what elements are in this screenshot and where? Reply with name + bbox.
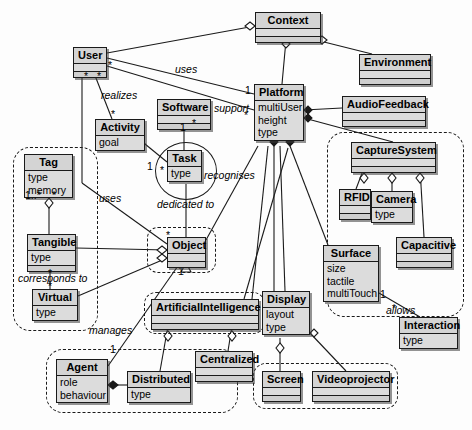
class-box-capturesystem[interactable]: CaptureSystem bbox=[351, 142, 436, 173]
class-name-task: Task bbox=[168, 151, 201, 167]
multiplicity-platform-1: 1 bbox=[245, 85, 251, 96]
multiplicity-tag-dot: * bbox=[52, 190, 56, 201]
class-attrs-environment bbox=[360, 71, 430, 79]
class-name-user: User bbox=[74, 48, 106, 64]
class-name-artificialintelligence: ArtificialIntelligence bbox=[152, 300, 258, 316]
class-name-tangible: Tangible bbox=[28, 235, 75, 251]
attr-platform-multiuser: multiUser bbox=[258, 101, 300, 114]
class-box-object[interactable]: Object bbox=[167, 237, 206, 268]
class-box-videoprojector[interactable]: Videoprojector bbox=[312, 371, 390, 402]
class-box-rfid[interactable]: RFID bbox=[339, 189, 371, 220]
multiplicity-user-c: * bbox=[108, 60, 112, 71]
class-name-capacitive: Capacitive bbox=[397, 238, 451, 254]
class-ops-environment bbox=[360, 79, 430, 84]
class-attrs-context bbox=[256, 29, 320, 37]
attr-platform-height: height bbox=[258, 114, 300, 127]
class-attrs-object bbox=[168, 254, 205, 262]
class-box-user[interactable]: User bbox=[73, 47, 107, 78]
class-box-distributed[interactable]: Distributed type bbox=[127, 371, 191, 403]
class-attrs-virtual: type bbox=[33, 306, 77, 320]
class-name-screen: Screen bbox=[263, 372, 300, 388]
class-box-agent[interactable]: Agent role behaviour bbox=[56, 359, 108, 403]
class-name-distributed: Distributed bbox=[128, 372, 190, 388]
class-box-capacitive[interactable]: Capacitive bbox=[396, 237, 452, 268]
class-box-activity[interactable]: Activity goal bbox=[95, 119, 145, 151]
class-attrs-user bbox=[74, 64, 106, 72]
attr-agent-behaviour: behaviour bbox=[60, 389, 104, 402]
class-ops-capturesystem bbox=[352, 167, 435, 172]
class-name-agent: Agent bbox=[57, 360, 107, 376]
class-attrs-rfid bbox=[340, 206, 370, 214]
relation-label-dedicated-to: dedicated to bbox=[157, 199, 214, 210]
attr-camera-type: type bbox=[375, 208, 409, 221]
class-attrs-activity: goal bbox=[96, 136, 144, 150]
multiplicity-task-dot: * bbox=[160, 165, 164, 176]
attr-tag-type: type bbox=[28, 171, 69, 184]
class-box-context[interactable]: Context bbox=[255, 12, 321, 43]
class-ops-user bbox=[74, 72, 106, 77]
class-box-display[interactable]: Display layout type bbox=[262, 291, 310, 335]
class-name-audiofeedback: AudioFeedback bbox=[343, 97, 425, 113]
class-box-audiofeedback[interactable]: AudioFeedback bbox=[342, 96, 426, 127]
class-attrs-camera: type bbox=[372, 208, 412, 222]
uml-diagram-canvas: Platform --> Activity --> Task --> Objec… bbox=[0, 0, 472, 430]
class-attrs-display: layout type bbox=[263, 308, 309, 334]
class-name-centralized: Centralized bbox=[196, 352, 252, 368]
attr-display-type: type bbox=[266, 321, 306, 334]
class-name-platform: Platform bbox=[255, 85, 303, 101]
attr-surface-tactile: tactile bbox=[327, 275, 375, 288]
attr-platform-type: type bbox=[258, 126, 300, 139]
class-name-surface: Surface bbox=[324, 246, 378, 262]
class-box-surface[interactable]: Surface size tactile multiTouch bbox=[323, 245, 379, 302]
multiplicity-activity: * bbox=[111, 109, 115, 120]
multiplicity-user-b: * bbox=[97, 71, 101, 82]
class-box-artificialintelligence[interactable]: ArtificialIntelligence bbox=[151, 299, 259, 330]
class-attrs-surface: size tactile multiTouch bbox=[324, 262, 378, 301]
class-box-task[interactable]: Task type bbox=[167, 150, 202, 182]
class-attrs-distributed: type bbox=[128, 388, 190, 402]
multiplicity-virtual-dot: * bbox=[48, 281, 52, 292]
class-attrs-agent: role behaviour bbox=[57, 376, 107, 402]
relation-label-allows: allows bbox=[386, 305, 415, 316]
class-ops-audiofeedback bbox=[343, 121, 425, 126]
relation-label-recognises: recognises bbox=[204, 170, 255, 181]
attr-task-type: type bbox=[171, 167, 198, 180]
relation-label-uses-user-platform: uses bbox=[175, 64, 197, 75]
class-box-virtual[interactable]: Virtual type bbox=[32, 289, 78, 321]
class-attrs-screen bbox=[263, 388, 300, 396]
relation-label-manages: manages bbox=[89, 325, 132, 336]
class-name-activity: Activity bbox=[96, 120, 144, 136]
class-box-environment[interactable]: Environment bbox=[359, 54, 431, 85]
class-attrs-artificialintelligence bbox=[152, 316, 258, 324]
class-ops-centralized bbox=[196, 376, 252, 381]
attr-tangible-type: type bbox=[31, 251, 72, 264]
attr-virtual-type: type bbox=[36, 306, 74, 319]
class-box-camera[interactable]: Camera type bbox=[371, 191, 413, 223]
class-attrs-tangible: type bbox=[28, 251, 75, 265]
class-ops-artificialintelligence bbox=[152, 324, 258, 329]
multiplicity-interaction-dot: * bbox=[392, 303, 396, 314]
class-name-camera: Camera bbox=[372, 192, 412, 208]
class-ops-object bbox=[168, 262, 205, 267]
class-name-rfid: RFID bbox=[340, 190, 370, 206]
attr-surface-size: size bbox=[327, 262, 375, 275]
class-box-centralized[interactable]: Centralized bbox=[195, 351, 253, 382]
relation-label-corresponds-to: corresponds to bbox=[18, 273, 87, 284]
attr-agent-role: role bbox=[60, 376, 104, 389]
multiplicity-software-1: 1 bbox=[180, 122, 186, 133]
multiplicity-support-dot: * bbox=[192, 118, 196, 129]
relation-label-realizes: realizes bbox=[101, 90, 137, 101]
class-box-platform[interactable]: Platform multiUser height type bbox=[254, 84, 304, 141]
class-attrs-audiofeedback bbox=[343, 113, 425, 121]
attr-activity-goal: goal bbox=[99, 136, 141, 149]
class-attrs-capacitive bbox=[397, 254, 451, 262]
class-box-interaction[interactable]: Interaction type bbox=[399, 317, 458, 349]
class-name-capturesystem: CaptureSystem bbox=[352, 143, 435, 159]
class-attrs-interaction: type bbox=[400, 334, 457, 348]
class-ops-context bbox=[256, 37, 320, 42]
class-box-screen[interactable]: Screen bbox=[262, 371, 301, 402]
class-attrs-platform: multiUser height type bbox=[255, 101, 303, 140]
class-attrs-videoprojector bbox=[313, 388, 389, 396]
class-name-environment: Environment bbox=[360, 55, 430, 71]
relation-label-uses-tag-object: uses bbox=[99, 193, 121, 204]
